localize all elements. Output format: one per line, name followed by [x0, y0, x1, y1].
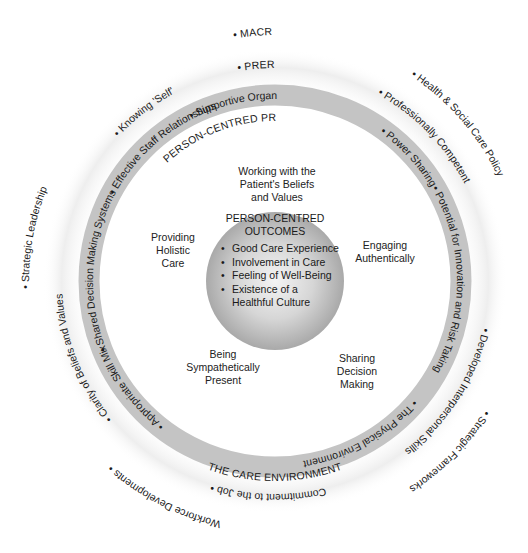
- outcome-item: Existence of a: [221, 283, 343, 297]
- macro-context-label: • MACRO CONTEXT: [0, 0, 272, 40]
- process-line: Care: [138, 257, 208, 270]
- outcome-item: Good Care Experience: [221, 242, 343, 256]
- outcomes-title-line1: PERSON-CENTRED: [207, 212, 343, 225]
- outcomes-title: PERSON-CENTRED OUTCOMES: [207, 212, 343, 238]
- process-line: Engaging: [345, 239, 425, 252]
- process-line: Working with the: [227, 165, 327, 178]
- outcome-item-continuation: Healthful Culture: [221, 296, 343, 310]
- person-centred-outcomes: PERSON-CENTRED OUTCOMES Good Care Experi…: [207, 212, 343, 310]
- process-line: Sharing: [322, 352, 392, 365]
- outcome-item: Feeling of Well-Being: [221, 269, 343, 283]
- process-line: Being: [178, 348, 268, 361]
- process-sharing-decision-making: Sharing Decision Making: [322, 352, 392, 391]
- process-line: and Values: [227, 191, 327, 204]
- process-providing-holistic-care: Providing Holistic Care: [138, 231, 208, 270]
- outcome-item: Involvement in Care: [221, 256, 343, 270]
- process-working-with-beliefs-values: Working with the Patient's Beliefs and V…: [227, 165, 327, 204]
- process-engaging-authentically: Engaging Authentically: [345, 239, 425, 265]
- process-line: Present: [178, 374, 268, 387]
- process-being-sympathetically-present: Being Sympathetically Present: [178, 348, 268, 387]
- process-line: Making: [322, 378, 392, 391]
- process-line: Sympathetically: [178, 361, 268, 374]
- process-line: Decision: [322, 365, 392, 378]
- outcomes-list: Good Care Experience Involvement in Care…: [207, 242, 343, 310]
- process-line: Patient's Beliefs: [227, 178, 327, 191]
- process-line: Holistic: [138, 244, 208, 257]
- outcomes-title-line2: OUTCOMES: [207, 225, 343, 238]
- process-line: Providing: [138, 231, 208, 244]
- process-line: Authentically: [345, 252, 425, 265]
